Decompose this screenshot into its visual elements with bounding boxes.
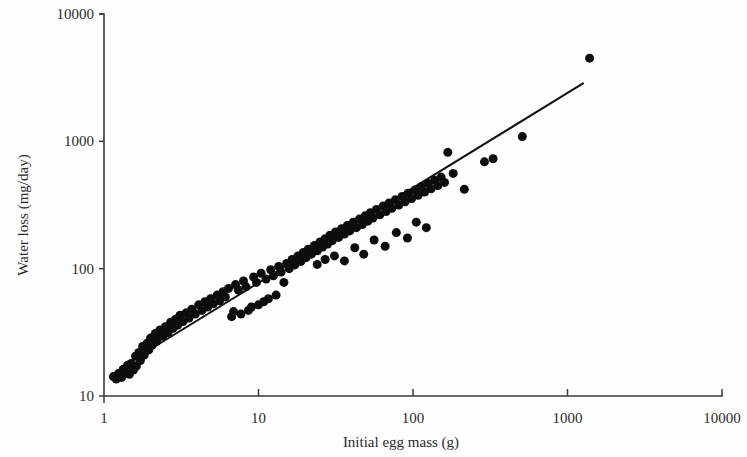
data-point <box>264 294 273 303</box>
x-tick-label: 1 <box>100 410 108 426</box>
y-tick-label: 100 <box>72 261 95 277</box>
x-tick-label: 10 <box>251 410 266 426</box>
y-tick-label: 1000 <box>64 133 94 149</box>
data-point <box>422 223 431 232</box>
data-point <box>272 291 281 300</box>
axis-group <box>99 14 722 403</box>
data-point <box>443 148 452 157</box>
data-point <box>412 218 421 227</box>
data-point <box>460 185 469 194</box>
x-tick-label: 10000 <box>703 410 741 426</box>
y-axis-title: Water loss (mg/day) <box>15 154 32 275</box>
data-point <box>440 178 449 187</box>
figure-canvas: 10100100010000110100100010000Initial egg… <box>0 0 747 457</box>
y-tick-label: 10 <box>79 388 94 404</box>
data-point <box>242 282 251 291</box>
data-point <box>330 251 339 260</box>
y-tick-label: 10000 <box>57 6 95 22</box>
data-point <box>370 235 379 244</box>
data-point <box>518 132 527 141</box>
data-point <box>480 157 489 166</box>
data-points-group <box>109 54 594 384</box>
data-point <box>277 268 286 277</box>
data-point <box>313 260 322 269</box>
data-point <box>340 256 349 265</box>
data-point <box>279 278 288 287</box>
data-point <box>321 255 330 264</box>
data-point <box>234 285 243 294</box>
scatter-plot[interactable]: 10100100010000110100100010000Initial egg… <box>0 0 747 457</box>
data-point <box>449 169 458 178</box>
data-point <box>403 234 412 243</box>
data-point <box>585 54 594 63</box>
data-point <box>350 243 359 252</box>
data-point <box>221 292 230 301</box>
data-point <box>381 242 390 251</box>
data-point <box>252 278 261 287</box>
axis-spines <box>104 14 722 396</box>
x-tick-label: 100 <box>402 410 425 426</box>
x-tick-label: 1000 <box>553 410 583 426</box>
data-point <box>392 228 401 237</box>
data-point <box>359 250 368 259</box>
data-point <box>489 154 498 163</box>
x-axis-title: Initial egg mass (g) <box>343 434 459 451</box>
axis-labels-group: 10100100010000110100100010000Initial egg… <box>15 6 741 451</box>
